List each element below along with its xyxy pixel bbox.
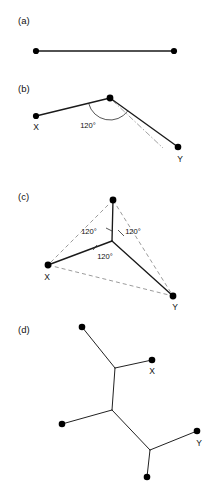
panel-b: 120°XY(b) — [18, 83, 183, 164]
tree-edge — [112, 200, 113, 241]
point-label-x: X — [44, 272, 50, 282]
panel-c: 120°120°120°XY(c) — [18, 191, 178, 312]
node-terminal-upper-left — [79, 324, 86, 331]
tree-edge — [62, 410, 112, 424]
node-terminal-x — [45, 262, 52, 269]
angle-tick — [118, 230, 124, 236]
panel-label-b: (b) — [18, 83, 30, 94]
node-terminal-x — [149, 357, 156, 364]
point-label-y: Y — [172, 302, 178, 312]
figure-root: (a)120°XY(b)120°120°120°XY(c)XY(d) — [0, 0, 212, 499]
node-terminal-top — [110, 197, 117, 204]
tree-edge — [110, 98, 178, 147]
tree-edge — [112, 368, 115, 410]
panels-group: (a)120°XY(b)120°120°120°XY(c)XY(d) — [18, 15, 202, 480]
point-label-x: X — [149, 366, 155, 376]
tree-edge — [112, 241, 173, 296]
tree-edge — [82, 327, 115, 368]
panel-d: XY(d) — [18, 324, 202, 481]
node-steiner-vertex — [107, 95, 114, 102]
angle-label: 120° — [80, 121, 96, 130]
node-left-terminal — [33, 48, 39, 54]
tree-edge — [112, 410, 150, 450]
node-right-terminal — [171, 48, 177, 54]
tree-edge — [36, 98, 110, 116]
angle-label: 120° — [81, 227, 97, 236]
point-label-y: Y — [177, 154, 183, 164]
panel-label-c: (c) — [18, 191, 29, 202]
point-label-x: X — [33, 122, 39, 132]
dash-dot-reference-line — [112, 100, 163, 148]
node-terminal-y — [170, 293, 177, 300]
node-terminal-left — [59, 421, 66, 428]
node-terminal-y — [175, 144, 182, 151]
dashed-edge — [48, 265, 173, 296]
angle-tick — [106, 228, 112, 231]
tree-edge — [147, 450, 150, 477]
panel-label-d: (d) — [18, 324, 30, 335]
angle-label: 120° — [97, 252, 113, 261]
steiner-tree-figure: (a)120°XY(b)120°120°120°XY(c)XY(d) — [0, 0, 212, 499]
dashed-edge — [113, 200, 173, 296]
tree-edge — [115, 360, 152, 368]
node-terminal-y — [194, 428, 201, 435]
tree-edge — [150, 431, 197, 450]
node-terminal-bottom — [144, 474, 151, 481]
panel-label-a: (a) — [18, 15, 30, 26]
node-terminal-x — [33, 113, 39, 119]
point-label-y: Y — [196, 438, 202, 448]
angle-label: 120° — [125, 227, 141, 236]
panel-a: (a) — [18, 15, 177, 54]
